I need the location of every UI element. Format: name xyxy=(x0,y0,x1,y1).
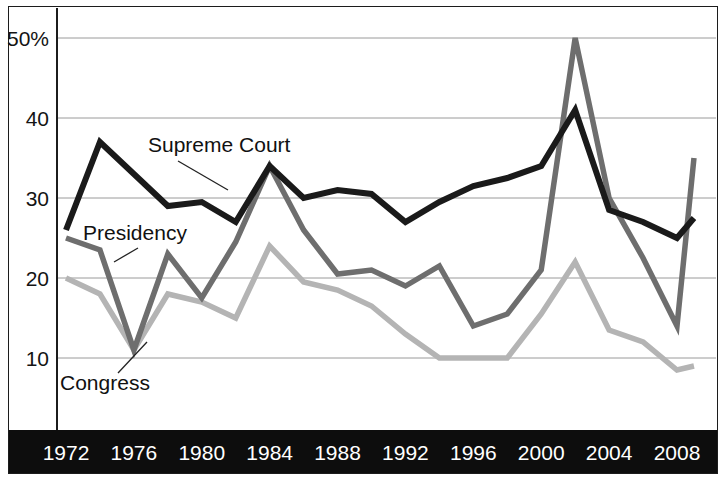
x-tick-label-2008: 2008 xyxy=(654,441,701,464)
y-tick-label-50: 50% xyxy=(7,27,49,50)
x-tick-label-1988: 1988 xyxy=(314,441,361,464)
x-tick-label-1972: 1972 xyxy=(43,441,90,464)
leader-line-presidency xyxy=(114,248,138,262)
line-chart: 1020304050%19721976198019841988199219962… xyxy=(0,0,726,496)
leader-line-supreme-court xyxy=(178,161,228,190)
series-label-congress: Congress xyxy=(60,371,150,394)
y-tick-label-20: 20 xyxy=(26,267,49,290)
x-tick-label-2004: 2004 xyxy=(586,441,633,464)
y-tick-label-10: 10 xyxy=(26,347,49,370)
y-axis-labels: 1020304050% xyxy=(7,27,49,370)
series-line-congress xyxy=(66,246,694,370)
chart-container: 1020304050%19721976198019841988199219962… xyxy=(0,0,726,496)
y-tick-label-40: 40 xyxy=(26,107,49,130)
data-series-group xyxy=(66,38,694,370)
x-tick-label-2000: 2000 xyxy=(518,441,565,464)
series-label-supreme-court: Supreme Court xyxy=(148,133,291,156)
x-tick-label-1980: 1980 xyxy=(178,441,225,464)
x-tick-label-1996: 1996 xyxy=(450,441,497,464)
series-label-presidency: Presidency xyxy=(83,221,187,244)
x-tick-label-1984: 1984 xyxy=(246,441,293,464)
x-tick-label-1992: 1992 xyxy=(382,441,429,464)
y-tick-label-30: 30 xyxy=(26,187,49,210)
x-tick-label-1976: 1976 xyxy=(111,441,158,464)
series-line-supreme-court xyxy=(66,110,694,238)
